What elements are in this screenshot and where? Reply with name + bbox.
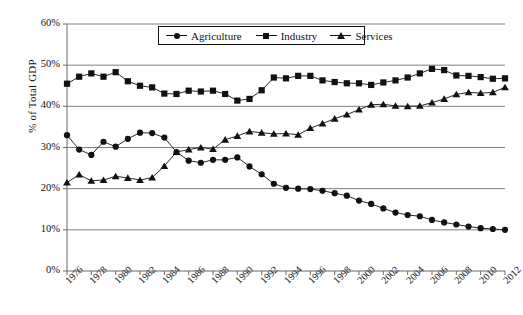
data-point [222,91,228,97]
data-point [343,111,351,118]
data-point [234,154,240,160]
data-point [259,171,265,177]
data-point [380,79,386,85]
data-point [502,227,508,233]
data-point [295,73,301,79]
data-point [501,84,509,91]
data-point [63,179,71,186]
data-point [319,188,325,194]
legend-item-agriculture: Agriculture [166,30,242,42]
series-industry [64,66,508,104]
data-point [417,213,423,219]
data-point [405,212,411,218]
data-point [440,95,448,102]
triangle-marker-icon [330,35,351,36]
data-point [356,80,362,86]
data-point [233,132,241,139]
data-point [490,226,496,232]
data-point [478,225,484,231]
data-point [125,78,131,84]
data-point [137,130,143,136]
square-marker-icon [256,35,277,36]
data-point [210,88,216,94]
data-point [380,205,386,211]
data-series [63,66,509,233]
data-point [465,89,473,96]
data-point [319,77,325,83]
data-point [149,130,155,136]
data-point [161,90,167,96]
data-point [368,82,374,88]
data-point [429,66,435,72]
data-point [465,223,471,229]
data-point [392,209,398,215]
legend-label-services: Services [355,30,392,42]
data-point [283,185,289,191]
data-point [100,74,106,80]
data-point [453,221,459,227]
circle-marker-icon [166,35,187,36]
gridlines [67,24,505,230]
legend-item-services: Services [330,30,392,42]
data-point [392,77,398,83]
data-point [441,67,447,73]
data-point [331,115,339,122]
data-point [368,201,374,207]
data-point [355,106,363,113]
chart-legend: Agriculture Industry Services [158,26,365,45]
data-point [344,193,350,199]
data-point [112,173,120,180]
data-point [75,171,83,178]
series-agriculture [64,130,508,233]
legend-label-agriculture: Agriculture [191,30,242,42]
data-point [246,163,252,169]
data-point [271,181,277,187]
legend-label-industry: Industry [281,30,318,42]
data-point [64,81,70,87]
data-point [307,186,313,192]
data-point [100,139,106,145]
data-point [161,135,167,141]
data-point [246,96,252,102]
data-point [246,128,254,135]
data-point [88,152,94,158]
data-point [490,76,496,82]
data-point [465,73,471,79]
data-point [149,84,155,90]
data-point [100,176,108,183]
data-point [307,73,313,79]
data-point [186,88,192,94]
data-point [259,87,265,93]
data-point [234,97,240,103]
data-point [271,74,277,80]
data-point [113,69,119,75]
data-point [332,79,338,85]
data-point [478,74,484,80]
data-point [428,99,436,106]
data-point [186,158,192,164]
data-point [221,136,229,143]
data-point [76,146,82,152]
data-point [295,186,301,192]
legend-item-industry: Industry [256,30,318,42]
data-point [198,160,204,166]
series-services [63,84,509,186]
data-point [283,75,289,81]
data-point [429,217,435,223]
data-point [198,88,204,94]
data-point [210,157,216,163]
data-point [319,120,327,127]
data-point [441,219,447,225]
data-point [88,70,94,76]
data-point [356,198,362,204]
data-point [489,89,497,96]
data-point [113,144,119,150]
data-point [306,125,314,132]
data-point [332,190,338,196]
data-point [453,72,459,78]
data-point [76,74,82,80]
data-point [173,91,179,97]
data-point [64,132,70,138]
